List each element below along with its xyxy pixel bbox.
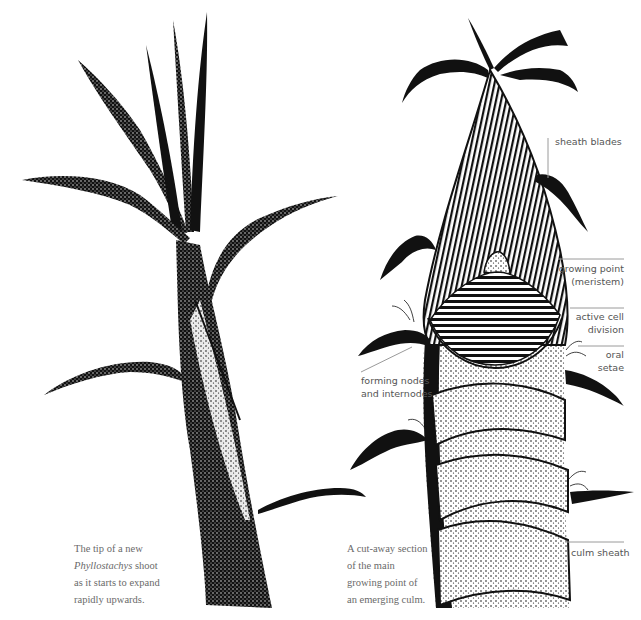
label-oral-setae: oral setae <box>556 348 624 374</box>
label-culm-sheath: culm sheath <box>571 546 630 559</box>
botanical-illustration <box>0 0 641 620</box>
left-caption: The tip of a new Phyllostachys shoot as … <box>74 540 160 608</box>
label-active-cell-division: active cell division <box>556 310 624 336</box>
label-text: setae <box>556 361 624 374</box>
caption-line: of the main <box>347 557 427 574</box>
label-sheath-blades: sheath blades <box>555 135 622 148</box>
label-text: culm sheath <box>571 547 630 558</box>
caption-line-rest: shoot <box>132 560 157 571</box>
label-forming-nodes: forming nodes and internodes <box>361 374 433 400</box>
right-caption: A cut-away section of the main growing p… <box>347 540 427 608</box>
label-text: active cell <box>556 310 624 323</box>
left-shoot-drawing <box>22 12 366 608</box>
label-text: growing point <box>556 262 624 275</box>
caption-italic-genus: Phyllostachys <box>74 560 132 571</box>
caption-line: as it starts to expand <box>74 574 160 591</box>
caption-line: Phyllostachys shoot <box>74 557 160 574</box>
label-text: oral <box>556 348 624 361</box>
label-text: and internodes <box>361 387 433 400</box>
label-growing-point: growing point (meristem) <box>556 262 624 288</box>
label-text: forming nodes <box>361 374 433 387</box>
caption-line: A cut-away section <box>347 540 427 557</box>
label-text: division <box>556 323 624 336</box>
label-text: sheath blades <box>555 136 622 147</box>
caption-line: The tip of a new <box>74 540 160 557</box>
caption-line: rapidly upwards. <box>74 591 160 608</box>
caption-line: growing point of <box>347 574 427 591</box>
label-text: (meristem) <box>556 275 624 288</box>
caption-line: an emerging culm. <box>347 591 427 608</box>
